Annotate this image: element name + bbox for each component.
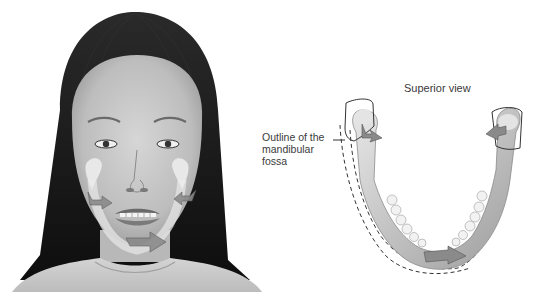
- left-condyle-head: [355, 109, 373, 125]
- face-illustration: [12, 12, 262, 292]
- superior-view-title: Superior view: [404, 82, 471, 94]
- anatomy-figure: Superior view Outline of the mandibular …: [0, 0, 541, 297]
- fossa-callout-label: Outline of the mandibular fossa: [262, 131, 342, 167]
- mandible-superior-view: [333, 99, 522, 274]
- callout-line-3: fossa: [262, 155, 342, 167]
- callout-line-2: mandibular: [262, 143, 342, 155]
- callout-line-1: Outline of the: [262, 131, 342, 143]
